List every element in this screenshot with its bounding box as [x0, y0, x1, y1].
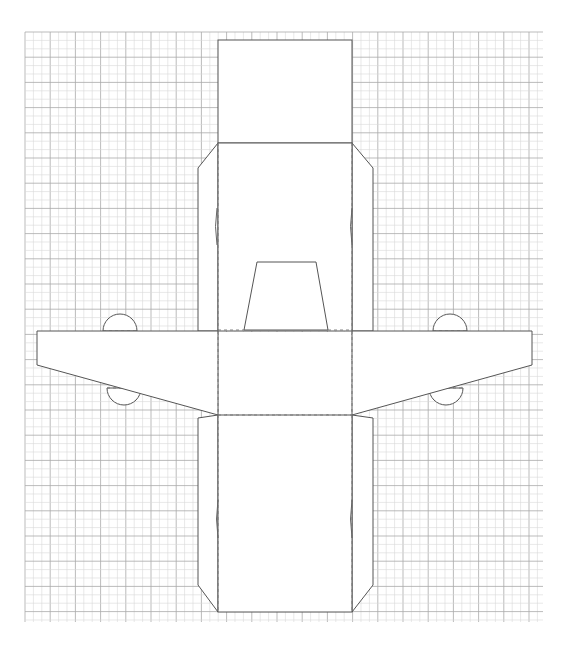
wing-root-center [219, 332, 351, 414]
tail-fin [244, 262, 328, 330]
airplane-template-canvas [0, 0, 574, 650]
left-upper-side-tab [198, 143, 218, 331]
left-lower-side-tab [198, 415, 218, 612]
right-lower-side-tab [352, 415, 373, 612]
fuselage-lower-body [218, 415, 352, 612]
fuselage-top-panel [218, 40, 352, 143]
right-upper-side-tab [352, 143, 373, 331]
